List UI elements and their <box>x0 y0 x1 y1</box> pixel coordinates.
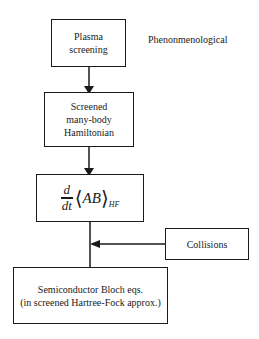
collisions-label: Collisions <box>187 238 228 251</box>
semiconductor-bloch-label: Semiconductor Bloch eqs. (in screened Ha… <box>20 283 161 309</box>
fraction-denominator: dt <box>61 199 73 213</box>
plasma-screening-label: Plasma screening <box>69 30 107 56</box>
screened-hamiltonian-label: Screened many-body Hamiltonian <box>64 100 114 139</box>
right-angle-bracket: ⟩ <box>101 186 109 210</box>
equation-of-motion-formula: d dt ⟨ AB ⟩ HF <box>61 183 120 212</box>
plasma-screening-box: Plasma screening <box>51 19 126 67</box>
screened-hamiltonian-box: Screened many-body Hamiltonian <box>44 92 134 147</box>
left-angle-bracket: ⟨ <box>75 186 83 210</box>
semiconductor-bloch-box: Semiconductor Bloch eqs. (in screened Ha… <box>13 267 168 324</box>
collisions-box: Collisions <box>165 228 249 260</box>
hf-subscript: HF <box>109 200 120 209</box>
equation-of-motion-box: d dt ⟨ AB ⟩ HF <box>36 174 144 222</box>
phenomenological-label: Phenonmenological <box>148 34 227 45</box>
fraction-numerator: d <box>62 183 71 197</box>
derivative-fraction: d dt <box>61 183 73 212</box>
expectation-expression: AB <box>83 190 101 207</box>
